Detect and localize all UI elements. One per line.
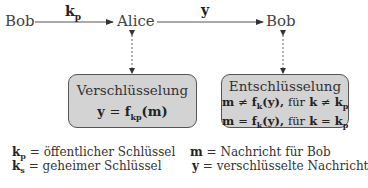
edge-label-sub: p [75, 12, 81, 22]
d2-lhs: m [222, 114, 234, 128]
decryption-line-1: m ≠ fk(y), für k ≠ kp [222, 95, 348, 114]
decryption-title: Entschlüsselung [222, 78, 348, 94]
legend-text: Nachricht für Bob [220, 145, 330, 159]
legend-eq: = [29, 159, 39, 173]
edge-label-base: k [65, 3, 75, 19]
d1-op: ≠ [238, 95, 248, 109]
d1-cond-op: ≠ [321, 95, 331, 109]
legend-eq: = [207, 145, 217, 159]
eq-lhs: y [97, 104, 105, 119]
eq-arg: (m) [142, 104, 168, 119]
edge-label-ciphertext: y [201, 2, 209, 18]
decryption-line-2: m = fk(y), für k = kp [222, 114, 348, 133]
legend-secret-key: ks = geheimer Schlüssel [12, 159, 162, 177]
d1-cond-lhs: k [309, 95, 317, 109]
encryption-title: Verschlüsselung [69, 82, 196, 98]
d2-cond-op: = [321, 114, 331, 128]
d2-arg: (y), [262, 114, 284, 128]
legend-message: m = Nachricht für Bob [190, 145, 331, 159]
encryption-box: Verschlüsselung y = fkp(m) [68, 74, 197, 128]
legend-eq: = [203, 159, 213, 173]
d1-lhs: m [222, 95, 234, 109]
edge-label-public-key: kp [65, 3, 81, 22]
decryption-box: Entschlüsselung m ≠ fk(y), für k ≠ kp m … [221, 74, 349, 128]
d1-cond-rhs-sub: p [343, 101, 349, 111]
encryption-equation: y = fkp(m) [69, 104, 196, 122]
legend-sym: m [190, 145, 203, 159]
legend-sub: s [20, 165, 25, 175]
d2-cond-lhs: k [309, 114, 317, 128]
d1-cond-rhs: k [335, 95, 343, 109]
eq-sub: kp [130, 112, 141, 122]
node-receiver-bob: Bob [266, 12, 296, 30]
eq-op: = [109, 104, 120, 119]
node-alice: Alice [117, 12, 155, 30]
d1-fuer: für [288, 95, 305, 109]
legend-text: verschlüsselte Nachricht [217, 159, 368, 173]
legend-text: geheimer Schlüssel [43, 159, 162, 173]
legend-eq: = [30, 145, 40, 159]
legend-sym: y [192, 159, 199, 173]
d2-op: = [238, 114, 248, 128]
d2-cond-rhs-sub: p [343, 121, 349, 131]
d2-fuer: für [288, 114, 305, 128]
d1-arg: (y), [262, 95, 284, 109]
legend-text: öffentlicher Schlüssel [44, 145, 176, 159]
node-sender-bob: Bob [5, 12, 35, 30]
legend-ciphertext: y = verschlüsselte Nachricht [192, 159, 368, 173]
d2-cond-rhs: k [335, 114, 343, 128]
